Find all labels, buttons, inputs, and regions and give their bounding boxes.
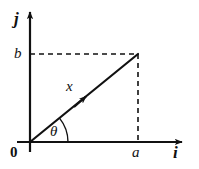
angle-arc (60, 118, 68, 142)
y-component-label-b: b (14, 46, 22, 61)
y-axis-label-j: j (14, 10, 19, 27)
x-component-label-a: a (132, 145, 140, 160)
vector-label-x: x (66, 79, 73, 94)
diagram-canvas (0, 0, 199, 169)
vector-x-arrowhead (74, 97, 86, 108)
x-axis-label-i: i (173, 144, 178, 161)
angle-label-theta: θ (50, 124, 57, 139)
vector-diagram-figure: j i 0 b a x θ (0, 0, 199, 169)
origin-label: 0 (10, 145, 18, 160)
